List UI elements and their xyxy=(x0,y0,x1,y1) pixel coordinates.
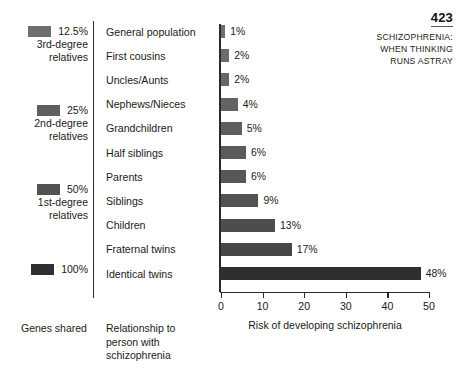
legend-item-header: 25% xyxy=(0,104,88,116)
bar-value-label: 2% xyxy=(234,75,249,85)
x-axis-tick-label: 40 xyxy=(381,301,393,312)
bar-value-label: 1% xyxy=(230,27,245,37)
category-label: Half siblings xyxy=(106,148,163,159)
legend-item: 25%2nd-degree relatives xyxy=(0,104,88,143)
x-axis-tick xyxy=(429,292,430,298)
legend-item-header: 100% xyxy=(0,263,88,275)
genes-shared-caption: Genes shared xyxy=(21,322,87,336)
category-label: Parents xyxy=(106,172,143,183)
legend-description: 3rd-degree relatives xyxy=(0,38,88,64)
legend-percent-label: 25% xyxy=(67,104,88,116)
x-axis-tick xyxy=(304,292,305,298)
bar xyxy=(221,49,229,62)
bar-value-label: 13% xyxy=(280,221,301,231)
bar xyxy=(221,73,229,86)
category-label: Uncles/Aunts xyxy=(106,75,168,86)
x-axis-title: Risk of developing schizophrenia xyxy=(219,319,431,331)
x-axis-tick-label: 0 xyxy=(218,301,224,312)
category-label: Siblings xyxy=(106,196,143,207)
bar-value-label: 6% xyxy=(251,148,266,158)
bar-value-label: 4% xyxy=(243,100,258,110)
bar-value-label: 48% xyxy=(426,269,447,279)
legend-description: 1st-degree relatives xyxy=(0,196,88,222)
category-label: Nephews/Nieces xyxy=(106,99,186,110)
category-label: Identical twins xyxy=(106,269,173,280)
legend-item-header: 50% xyxy=(0,183,88,195)
legend-percent-label: 50% xyxy=(67,183,88,195)
bar xyxy=(221,146,246,159)
legend-description: 2nd-degree relatives xyxy=(0,117,88,143)
bar-value-label: 17% xyxy=(297,245,318,255)
vertical-divider xyxy=(93,21,94,298)
bar xyxy=(221,170,246,183)
x-axis-tick xyxy=(387,292,388,298)
bar xyxy=(221,267,421,280)
legend-percent-label: 12.5% xyxy=(58,25,88,37)
legend-item: 50%1st-degree relatives xyxy=(0,183,88,222)
bar xyxy=(221,122,242,135)
bar-chart-plot-area: Risk of developing schizophrenia 1%2%2%4… xyxy=(219,20,459,310)
legend-item: 100% xyxy=(0,263,88,275)
x-axis-tick-label: 50 xyxy=(423,301,435,312)
legend-percent-label: 100% xyxy=(61,263,88,275)
bar xyxy=(221,219,275,232)
legend-color-swatch xyxy=(28,26,51,37)
legend-item: 12.5%3rd-degree relatives xyxy=(0,25,88,64)
legend-item-header: 12.5% xyxy=(0,25,88,37)
legend-color-swatch xyxy=(37,184,60,195)
relationship-caption: Relationship to person with schizophreni… xyxy=(106,322,175,363)
category-label: Grandchildren xyxy=(106,123,173,134)
x-axis-tick-label: 20 xyxy=(298,301,310,312)
bar-value-label: 2% xyxy=(234,51,249,61)
legend-color-swatch xyxy=(37,105,60,116)
x-axis-tick-label: 30 xyxy=(340,301,352,312)
bar-value-label: 5% xyxy=(247,124,262,134)
legend-color-swatch xyxy=(31,264,54,275)
bar xyxy=(221,25,225,38)
bar xyxy=(221,98,238,111)
x-axis-tick xyxy=(263,292,264,298)
bar-value-label: 9% xyxy=(263,196,278,206)
category-label: Children xyxy=(106,220,145,231)
x-axis-tick-label: 10 xyxy=(257,301,269,312)
bar xyxy=(221,243,292,256)
bar-value-label: 6% xyxy=(251,172,266,182)
x-axis-tick xyxy=(346,292,347,298)
category-label: First cousins xyxy=(106,51,165,62)
x-axis-line xyxy=(220,292,429,293)
bar xyxy=(221,194,258,207)
x-axis-tick xyxy=(221,292,222,298)
category-label: General population xyxy=(106,27,196,38)
category-label: Fraternal twins xyxy=(106,244,175,255)
